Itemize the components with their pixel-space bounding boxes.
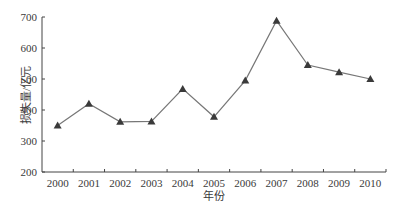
data-series bbox=[54, 17, 375, 129]
y-tick-label: 300 bbox=[21, 135, 38, 147]
triangle-marker-icon bbox=[54, 122, 62, 129]
triangle-marker-icon bbox=[179, 85, 187, 92]
y-axis-title: 损失量/亿元 bbox=[19, 66, 32, 124]
x-tick-label: 2004 bbox=[172, 177, 195, 189]
x-tick-label: 2000 bbox=[47, 177, 70, 189]
triangle-marker-icon bbox=[85, 100, 93, 107]
x-tick-label: 2006 bbox=[234, 177, 257, 189]
x-tick-label: 2002 bbox=[109, 177, 131, 189]
x-tick-label: 2010 bbox=[359, 177, 382, 189]
y-tick-label: 600 bbox=[21, 42, 38, 54]
triangle-marker-icon bbox=[273, 17, 281, 24]
x-tick-label: 2003 bbox=[140, 177, 163, 189]
y-tick-label: 700 bbox=[21, 11, 38, 23]
triangle-marker-icon bbox=[241, 77, 249, 84]
x-axis: 2000200120022003200420052006200720082009… bbox=[42, 169, 386, 189]
x-axis-title: 年份 bbox=[203, 189, 225, 202]
line-chart: 200300400500600700 200020012002200320042… bbox=[0, 0, 395, 211]
x-tick-label: 2005 bbox=[203, 177, 226, 189]
y-tick-label: 200 bbox=[21, 166, 38, 178]
series-line bbox=[58, 21, 371, 126]
x-tick-label: 2001 bbox=[78, 177, 100, 189]
x-tick-label: 2007 bbox=[266, 177, 289, 189]
x-tick-label: 2008 bbox=[297, 177, 320, 189]
x-tick-label: 2009 bbox=[328, 177, 351, 189]
